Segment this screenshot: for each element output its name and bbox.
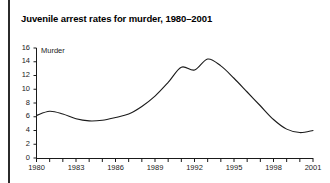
line-chart-svg <box>0 0 330 183</box>
x-tick-label: 1986 <box>101 164 131 172</box>
series-inline-label: Murder <box>41 46 65 55</box>
x-tick-label: 1980 <box>22 164 52 172</box>
y-tick-label: 8 <box>14 99 30 107</box>
y-tick-label: 16 <box>14 44 30 52</box>
y-tick-label: 0 <box>14 154 30 162</box>
plot-area: Murder <box>0 0 330 183</box>
x-tick-label: 1983 <box>61 164 91 172</box>
y-tick-label: 14 <box>14 57 30 65</box>
y-tick-label: 12 <box>14 71 30 79</box>
y-tick-label: 6 <box>14 112 30 120</box>
x-tick-label: 1992 <box>180 164 210 172</box>
x-tick-label: 1995 <box>219 164 249 172</box>
y-tick-label: 4 <box>14 126 30 134</box>
axes <box>37 48 314 159</box>
x-tick-label: 2001 <box>298 164 328 172</box>
x-tick-label: 1989 <box>140 164 170 172</box>
data-series-line-murder <box>37 59 314 133</box>
x-tick-label: 1998 <box>259 164 289 172</box>
chart-figure: Juvenile arrest rates for murder, 1980–2… <box>0 0 330 183</box>
y-tick-label: 10 <box>14 85 30 93</box>
y-tick-label: 2 <box>14 140 30 148</box>
